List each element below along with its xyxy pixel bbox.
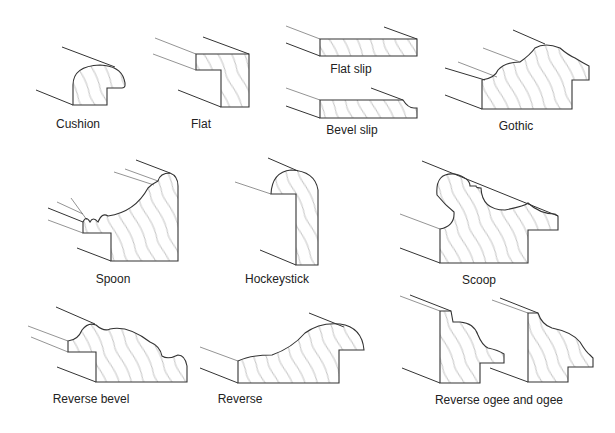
reverse-ogee-profile (400, 295, 504, 383)
label-reverse-bevel: Reverse bevel (53, 392, 130, 406)
bevel-slip-profile (286, 88, 417, 118)
label-flat: Flat (191, 117, 211, 131)
label-flat-slip: Flat slip (330, 62, 371, 76)
label-reverse: Reverse (218, 392, 263, 406)
ogee-profile (490, 298, 593, 382)
cushion-profile (36, 47, 125, 105)
hockeystick-profile (235, 158, 318, 265)
moulding-diagram (0, 0, 615, 433)
label-gothic: Gothic (499, 119, 534, 133)
gothic-profile (445, 30, 589, 109)
label-bevel-slip: Bevel slip (326, 123, 377, 137)
reverse-profile (200, 313, 364, 383)
spoon-profile (48, 160, 178, 261)
scoop-profile (400, 161, 558, 263)
label-spoon: Spoon (96, 272, 131, 286)
label-scoop: Scoop (462, 273, 496, 287)
reverse-bevel-profile (28, 307, 187, 382)
label-cushion: Cushion (56, 117, 100, 131)
label-hockeystick: Hockeystick (245, 272, 309, 286)
flat-slip-profile (286, 26, 417, 56)
flat-profile (153, 37, 249, 107)
label-reverse-ogee-and-ogee: Reverse ogee and ogee (435, 393, 563, 407)
